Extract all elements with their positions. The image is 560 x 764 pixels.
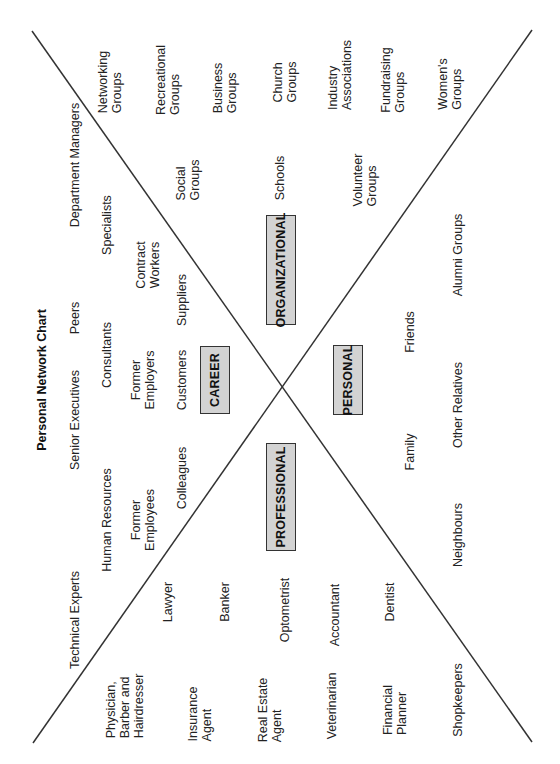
professional-label: Accountant — [328, 584, 342, 647]
personal-label: Other Relatives — [451, 362, 465, 448]
career-label: Suppliers — [175, 274, 189, 326]
organizational-label: Fundraising Groups — [379, 47, 407, 112]
career-label: Peers — [68, 302, 82, 335]
organizational-label: Women's Groups — [436, 58, 464, 109]
personal-label: Friends — [403, 311, 417, 353]
career-label: Former Employees — [129, 489, 157, 551]
category-organizational: ORGANIZATIONAL — [266, 215, 296, 325]
professional-label: Physician, Barber and Hairdresser — [104, 674, 146, 739]
organizational-label: Church Groups — [271, 62, 299, 103]
professional-label: Real Estate Agent — [256, 678, 284, 743]
career-label: Technical Experts — [68, 571, 82, 669]
personal-network-chart: Personal Network Chart CAREER ORGANIZATI… — [0, 0, 560, 764]
professional-label: Optometrist — [278, 578, 292, 643]
career-label: Customers — [175, 350, 189, 410]
career-label: Specialists — [100, 195, 114, 255]
professional-label: Insurance Agent — [186, 687, 214, 742]
personal-label: Alumni Groups — [451, 214, 465, 297]
organizational-label: Recreational Groups — [154, 45, 182, 115]
professional-label: Dentist — [383, 583, 397, 622]
personal-label: Neighbours — [451, 503, 465, 567]
professional-label: Shopkeepers — [451, 663, 465, 737]
career-label: Department Managers — [68, 103, 82, 227]
category-career: CAREER — [200, 346, 230, 414]
career-label: Colleagues — [175, 447, 189, 510]
career-label: Former Employers — [129, 350, 157, 409]
category-professional: PROFESSIONAL — [266, 443, 296, 551]
career-label: Senior Executives — [68, 370, 82, 470]
career-label: Human Resources — [100, 468, 114, 572]
organizational-label: Industry Associations — [326, 40, 354, 110]
career-label: Consultants — [100, 322, 114, 388]
professional-label: Banker — [218, 582, 232, 622]
organizational-label: Schools — [273, 156, 287, 200]
professional-label: Lawyer — [161, 582, 175, 622]
career-label: Contract Workers — [134, 241, 162, 288]
organizational-label: Business Groups — [211, 63, 239, 114]
organizational-label: Networking Groups — [96, 51, 124, 114]
personal-label: Family — [403, 434, 417, 471]
organizational-label: Volunteer Groups — [351, 154, 379, 207]
organizational-label: Social Groups — [174, 160, 202, 201]
chart-title: Personal Network Chart — [35, 309, 49, 451]
x-divider-lines — [0, 0, 560, 764]
category-personal: PERSONAL — [333, 345, 363, 415]
professional-label: Financial Planner — [381, 685, 409, 735]
professional-label: Veterinarian — [325, 673, 339, 740]
